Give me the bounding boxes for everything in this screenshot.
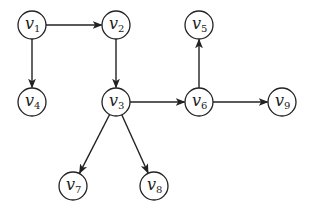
node-v1: v1: [18, 11, 46, 39]
node-label-subscript: 9: [284, 100, 290, 111]
node-v6: v6: [185, 88, 213, 116]
node-label: v: [25, 91, 34, 110]
node-v2: v2: [102, 11, 130, 39]
node-v7: v7: [59, 172, 87, 200]
directed-graph: v1v2v5v4v3v6v9v7v8: [0, 0, 312, 220]
node-v9: v9: [268, 88, 296, 116]
nodes-group: v1v2v5v4v3v6v9v7v8: [18, 11, 296, 200]
node-label-subscript: 4: [34, 100, 40, 111]
node-label-subscript: 3: [118, 100, 124, 111]
node-label: v: [25, 14, 34, 33]
node-label: v: [192, 14, 201, 33]
edge-v3-to-v7: [80, 114, 110, 173]
node-v3: v3: [102, 88, 130, 116]
node-label-subscript: 7: [75, 184, 81, 195]
edges-group: [32, 25, 268, 173]
node-label-subscript: 2: [118, 23, 124, 34]
node-v5: v5: [185, 11, 213, 39]
node-label-subscript: 5: [201, 23, 207, 34]
node-v8: v8: [140, 172, 168, 200]
node-label: v: [109, 91, 118, 110]
node-v4: v4: [18, 88, 46, 116]
node-label: v: [66, 175, 75, 194]
edge-v3-to-v8: [122, 115, 148, 173]
node-label: v: [192, 91, 201, 110]
node-label-subscript: 6: [201, 100, 207, 111]
node-label: v: [275, 91, 284, 110]
node-label: v: [109, 14, 118, 33]
node-label: v: [147, 175, 156, 194]
node-label-subscript: 1: [34, 23, 40, 34]
node-label-subscript: 8: [156, 184, 162, 195]
